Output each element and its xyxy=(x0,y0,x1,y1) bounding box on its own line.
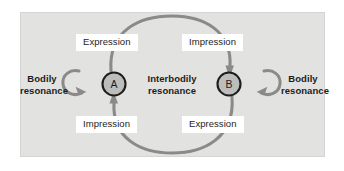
label-impression-top: Impression xyxy=(182,34,243,51)
interbodily-line2: resonance xyxy=(137,85,207,97)
bodily-right-line2: resonance xyxy=(281,85,325,97)
label-expression-bottom: Expression xyxy=(182,116,244,133)
bodily-right-line1: Bodily xyxy=(281,73,325,85)
self-loop-b xyxy=(257,71,281,95)
label-interbodily-resonance: Interbodily resonance xyxy=(137,73,207,96)
label-bodily-resonance-right: Bodily resonance xyxy=(281,73,325,96)
node-a-letter: A xyxy=(102,79,126,90)
label-expression-top: Expression xyxy=(76,34,138,51)
bodily-left-line2: resonance xyxy=(20,85,64,97)
diagram-figure: A B Expression Impression Impression Exp… xyxy=(0,0,344,171)
label-impression-bottom: Impression xyxy=(76,116,137,133)
bodily-left-line1: Bodily xyxy=(20,73,64,85)
label-bodily-resonance-left: Bodily resonance xyxy=(20,73,64,96)
node-b-letter: B xyxy=(217,79,241,90)
interbodily-line1: Interbodily xyxy=(137,73,207,85)
